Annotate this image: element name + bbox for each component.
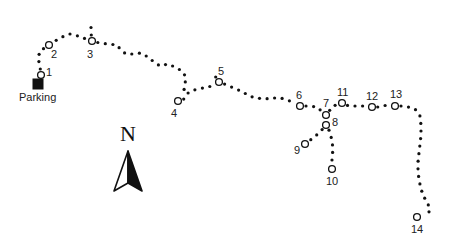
trail-dot bbox=[407, 106, 410, 109]
waypoint-marker-8[interactable] bbox=[323, 122, 330, 129]
trail-dot bbox=[230, 86, 233, 89]
waypoint-marker-14[interactable] bbox=[414, 214, 421, 221]
waypoint-marker-3[interactable] bbox=[89, 38, 96, 45]
trail-dot bbox=[37, 60, 40, 63]
waypoint-label-8: 8 bbox=[332, 117, 338, 128]
trail-dot bbox=[182, 98, 185, 101]
waypoint-label-5: 5 bbox=[218, 66, 224, 77]
trail-dot bbox=[90, 33, 93, 36]
trail-dot bbox=[288, 99, 291, 102]
waypoint-label-9: 9 bbox=[294, 145, 300, 156]
trail-dot bbox=[61, 35, 64, 38]
trail-dot bbox=[309, 138, 312, 141]
trail-11-to-13 bbox=[346, 104, 387, 109]
trail-dot bbox=[208, 85, 211, 88]
trail-dot bbox=[151, 59, 154, 62]
waypoint-marker-10[interactable] bbox=[329, 166, 336, 173]
trail-dot bbox=[184, 80, 187, 83]
trail-dot bbox=[418, 145, 421, 148]
trail-dot bbox=[237, 89, 240, 92]
trail-dot bbox=[273, 96, 276, 99]
trail-dot bbox=[138, 52, 141, 55]
trail-dot bbox=[89, 26, 92, 29]
trail-dot bbox=[281, 97, 284, 100]
trail-map: Parking N 1234567891011121314 bbox=[0, 0, 450, 249]
waypoint-marker-6[interactable] bbox=[297, 103, 304, 110]
trail-dot bbox=[312, 105, 315, 108]
waypoint-label-4: 4 bbox=[171, 108, 177, 119]
trail-13-to-14 bbox=[399, 104, 430, 213]
parking-label: Parking bbox=[19, 92, 56, 103]
trail-dot bbox=[251, 95, 254, 98]
trail-dot bbox=[171, 64, 174, 67]
trail-dot bbox=[223, 83, 226, 86]
trail-dot bbox=[427, 203, 430, 206]
trail-dot bbox=[420, 190, 423, 193]
trail-dot bbox=[399, 104, 402, 107]
trail-dot bbox=[353, 104, 356, 107]
waypoint-marker-9[interactable] bbox=[302, 141, 309, 148]
waypoint-marker-7[interactable] bbox=[323, 112, 330, 119]
trail-dot bbox=[157, 63, 160, 66]
trail-4-to-5 bbox=[182, 85, 211, 101]
trail-dot bbox=[38, 53, 41, 56]
waypoint-marker-11[interactable] bbox=[339, 100, 346, 107]
trail-dot bbox=[145, 54, 148, 57]
trail-dot bbox=[328, 109, 331, 112]
waypoint-markers bbox=[38, 38, 421, 221]
trail-dot bbox=[331, 151, 334, 154]
trail-6-to-7 bbox=[304, 104, 321, 111]
waypoint-marker-12[interactable] bbox=[369, 104, 376, 111]
trail-dot bbox=[321, 128, 324, 131]
trail-dot bbox=[418, 182, 421, 185]
trail-dot bbox=[164, 63, 167, 66]
trail-dot bbox=[327, 129, 330, 132]
trail-dot bbox=[123, 51, 126, 54]
trail-8-to-10 bbox=[327, 129, 334, 162]
north-arrow-icon bbox=[114, 151, 142, 191]
trail-dot bbox=[346, 104, 349, 107]
trail-spur-at-5 bbox=[214, 75, 217, 78]
trail-dot bbox=[193, 88, 196, 91]
trail-dot bbox=[315, 133, 318, 136]
trail-dot bbox=[39, 67, 42, 70]
trail-dot bbox=[187, 91, 190, 94]
trail-dot bbox=[55, 39, 58, 42]
waypoint-marker-4[interactable] bbox=[175, 98, 182, 105]
trail-dot bbox=[183, 88, 186, 91]
trail-dot bbox=[111, 43, 114, 46]
trail-dot bbox=[304, 104, 307, 107]
trail-5-to-6 bbox=[223, 83, 291, 103]
waypoint-label-14: 14 bbox=[411, 224, 423, 235]
trail-dot bbox=[419, 129, 422, 132]
trail-7-to-11 bbox=[328, 104, 337, 112]
waypoint-label-6: 6 bbox=[296, 90, 302, 101]
trail-dot bbox=[83, 37, 86, 40]
trail-dot bbox=[330, 136, 333, 139]
waypoint-label-3: 3 bbox=[87, 49, 93, 60]
trail-spur-north-of-3 bbox=[89, 26, 93, 37]
trail-dot bbox=[416, 167, 419, 170]
waypoint-marker-5[interactable] bbox=[216, 79, 223, 86]
trail-8-to-9 bbox=[309, 128, 324, 141]
waypoint-label-7: 7 bbox=[323, 98, 329, 109]
waypoint-marker-1[interactable] bbox=[38, 72, 45, 79]
trail-dot bbox=[423, 197, 426, 200]
trail-dot bbox=[130, 52, 133, 55]
trail-dot bbox=[214, 75, 217, 78]
trail-dot bbox=[417, 160, 420, 163]
waypoint-label-11: 11 bbox=[337, 87, 348, 98]
trail-dot bbox=[118, 46, 121, 49]
trail-dot bbox=[376, 105, 379, 108]
trail-dot bbox=[244, 92, 247, 95]
trail-3-to-4 bbox=[96, 41, 187, 91]
trail-dot bbox=[414, 108, 417, 111]
trail-dot bbox=[334, 104, 337, 107]
trail-dot bbox=[384, 104, 387, 107]
trail-dot bbox=[417, 175, 420, 178]
parking-icon[interactable] bbox=[33, 79, 44, 90]
waypoint-marker-13[interactable] bbox=[392, 103, 399, 110]
trail-dot bbox=[104, 42, 107, 45]
trail-dot bbox=[361, 104, 364, 107]
trail-paths bbox=[37, 26, 430, 214]
